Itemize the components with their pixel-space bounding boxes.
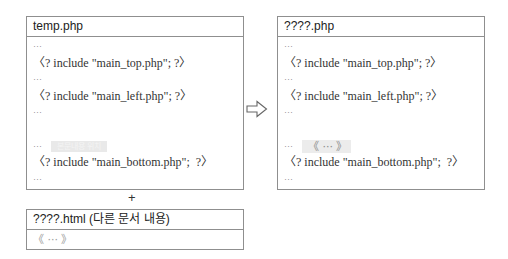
plus-icon: +	[128, 191, 136, 205]
panel-title: ????.html (다른 문서 내용)	[27, 210, 243, 230]
ellipsis-line: ···	[33, 104, 243, 121]
ellipsis-line: ···	[284, 104, 484, 121]
include-bottom-line: 〈? include "main_bottom.php"; ?〉	[33, 154, 243, 171]
ellipsis-line: ···	[33, 71, 243, 88]
panel-title: ????.php	[278, 17, 484, 37]
include-top-line: 〈? include "main_top.php"; ?〉	[33, 55, 243, 72]
ellipsis-line: ···	[33, 171, 243, 188]
panel-body: ··· 〈? include "main_top.php"; ?〉 ··· 〈?…	[27, 37, 243, 187]
include-bottom-line: 〈? include "main_bottom.php"; ?〉	[284, 154, 484, 171]
include-top-line: 〈? include "main_top.php"; ?〉	[284, 55, 484, 72]
panel-body: ··· 〈? include "main_top.php"; ?〉 ··· 〈?…	[278, 37, 484, 187]
panel-title: temp.php	[27, 17, 243, 37]
document-content: 《 ··· 》	[27, 230, 243, 249]
result-php-panel: ????.php ··· 〈? include "main_top.php"; …	[277, 16, 485, 190]
ellipsis-line: ···	[284, 171, 484, 188]
ellipsis-line: ···	[33, 38, 243, 55]
include-left-line: 〈? include "main_left.php"; ?〉	[284, 88, 484, 105]
include-left-line: 〈? include "main_left.php"; ?〉	[33, 88, 243, 105]
right-arrow-icon	[246, 100, 268, 118]
temp-php-panel: temp.php ··· 〈? include "main_top.php"; …	[26, 16, 244, 190]
html-document-panel: ????.html (다른 문서 내용) 《 ··· 》	[26, 209, 244, 250]
content-placeholder: 본문내용 위치	[51, 141, 107, 152]
ellipsis-line: ···	[284, 38, 484, 55]
inserted-content-line: 《 ··· 》	[284, 121, 484, 138]
inserted-content: 《 ··· 》	[302, 140, 351, 153]
ellipsis-line: ···	[284, 71, 484, 88]
content-placeholder-line: 본문내용 위치	[33, 121, 243, 138]
